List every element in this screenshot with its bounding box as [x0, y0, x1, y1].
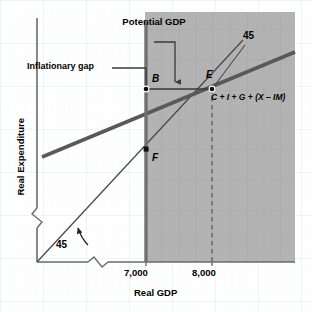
- forty-five-degree-angle-arc: [78, 228, 88, 245]
- potential-gdp-label: Potential GDP: [118, 16, 190, 27]
- x-tick-label-8000: 8,000: [192, 268, 216, 278]
- point-e-label: E: [206, 70, 213, 80]
- point-b-label: B: [152, 74, 159, 84]
- forty-five-line-label: 45: [243, 31, 254, 41]
- aggregate-expenditure-equation-label: C + I + G + (X – IM): [211, 93, 285, 102]
- point-f-label: F: [152, 153, 158, 163]
- inflationary-gap-label: Inflationary gap: [27, 62, 94, 71]
- keynesian-cross-figure: Potential GDP Inflationary gap B E F C +…: [0, 0, 312, 312]
- shaded-region-beyond-potential-gdp: [145, 12, 295, 262]
- x-tick-label-7000: 7,000: [124, 268, 148, 278]
- point-f-marker: [144, 147, 149, 152]
- point-b-marker: [143, 86, 149, 92]
- y-axis-title: Real Expenditure: [16, 109, 26, 205]
- x-axis-title: Real GDP: [134, 288, 177, 298]
- y-axis: [32, 18, 42, 262]
- forty-five-angle-label: 45: [56, 240, 67, 250]
